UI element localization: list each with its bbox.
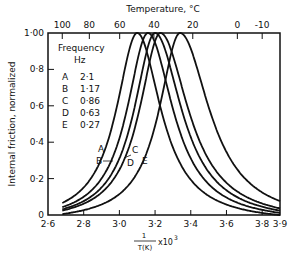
- x-tick-label: 3·2: [148, 219, 162, 229]
- top-tick-label: 0: [234, 20, 240, 30]
- x-tick-label: 3·4: [184, 219, 199, 229]
- y-tick-label: 0·8: [30, 64, 45, 74]
- legend-key: E: [62, 120, 68, 130]
- y-tick-label: 0·2: [30, 174, 44, 184]
- x-tick-label: 3·9: [273, 219, 288, 229]
- legend-value: 0·27: [80, 120, 100, 130]
- y-tick-label: 1·00: [24, 28, 44, 38]
- top-tick-label: 40: [148, 20, 160, 30]
- x-label-denominator: T(K): [137, 244, 153, 252]
- x-tick-label: 2·6: [41, 219, 56, 229]
- y-tick-label: 0·6: [30, 101, 45, 111]
- legend-key: B: [62, 84, 68, 94]
- legend-key: C: [62, 96, 68, 106]
- y-axis-label: Internal friction, normalized: [7, 62, 17, 187]
- x-tick-label: 2·8: [77, 219, 92, 229]
- legend-title: Frequency: [58, 43, 105, 53]
- curve-label-E: E: [142, 156, 148, 166]
- y-tick-label: 0: [38, 210, 44, 220]
- curve-label-D: D: [127, 158, 134, 168]
- x-tick-label: 3·0: [112, 219, 127, 229]
- legend-key: A: [62, 72, 69, 82]
- curve-label-A: A: [98, 144, 105, 154]
- x-tick-label: 3·6: [219, 219, 234, 229]
- legend-unit: Hz: [74, 55, 86, 65]
- legend: Frequency Hz A2·1B1·17C0·86D0·63E0·27: [58, 43, 105, 130]
- chart: 2·62·83·03·23·43·63·83·900·20·40·60·81·0…: [0, 0, 296, 259]
- legend-value: 1·17: [80, 84, 100, 94]
- x-label-suffix: x10: [158, 238, 173, 247]
- top-tick-label: -10: [255, 20, 270, 30]
- top-tick-label: 20: [187, 20, 199, 30]
- x-axis-label: 1 T(K) x10 3: [134, 232, 178, 252]
- x-label-exponent: 3: [174, 234, 178, 241]
- top-tick-label: 60: [114, 20, 126, 30]
- legend-value: 0·86: [80, 96, 100, 106]
- x-tick-label: 3·8: [255, 219, 270, 229]
- curve-label-B: B: [96, 156, 102, 166]
- legend-value: 2·1: [80, 72, 94, 82]
- top-tick-label: 80: [84, 20, 96, 30]
- legend-value: 0·63: [80, 108, 100, 118]
- top-tick-label: 100: [54, 20, 71, 30]
- legend-key: D: [62, 108, 69, 118]
- y-tick-label: 0·4: [30, 137, 45, 147]
- curve-label-C: C: [132, 145, 138, 155]
- x-label-numerator: 1: [142, 232, 146, 240]
- top-axis-label: Temperature, °C: [125, 4, 200, 14]
